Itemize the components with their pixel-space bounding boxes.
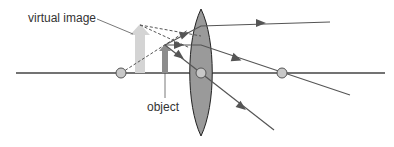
focal-point-far [277,68,287,78]
object-label: object [147,100,179,114]
ray-central-arrowhead [236,101,249,113]
virtual-image-arrow [130,24,150,73]
focal-point-near [116,68,126,78]
virtual-image-leader [97,19,133,34]
virtual-image-label: virtual image [28,11,96,25]
ray-parallel-arrowhead [256,19,266,27]
ray-arrowhead-near-2 [174,41,184,49]
lens-center-point [196,68,206,78]
